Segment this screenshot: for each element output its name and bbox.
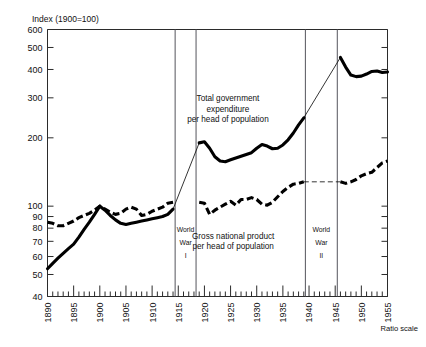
world-war-1-label-line: World: [177, 226, 195, 233]
x-tick-label: 1935: [278, 303, 288, 323]
expenditure-label-line: Total government: [197, 94, 261, 103]
x-tick-label: 1920: [200, 303, 210, 323]
y-axis-title-group: Index (1900=100): [32, 14, 99, 24]
x-tick-label: 1905: [121, 303, 131, 323]
gnp-label-line: Gross national product: [192, 232, 275, 241]
world-war-2-label-line: War: [315, 239, 328, 246]
world-war-1-label-line: I: [185, 252, 187, 259]
y-tick-label: 500: [27, 43, 42, 53]
ratio-scale-note: Ratio scale: [380, 324, 418, 333]
x-tick-label: 1940: [304, 303, 314, 323]
y-tick-label: 90: [32, 212, 42, 222]
x-tick-label: 1925: [226, 303, 236, 323]
y-tick-label: 300: [27, 93, 42, 103]
series-bridge-line: [173, 143, 199, 209]
x-tick-label: 1930: [252, 303, 262, 323]
world-war-2-label-line: World: [313, 226, 331, 233]
series-line: [199, 182, 304, 215]
world-war-2-label-line: II: [319, 252, 323, 259]
y-tick-label: 200: [27, 133, 42, 143]
y-axis-ticks: 405060708090100200300400500600: [27, 25, 387, 302]
world-war-1-label-line: War: [179, 239, 192, 246]
x-tick-label: 1945: [331, 303, 341, 323]
series-bridge-line: [304, 57, 341, 117]
chart-annotations: Total governmentexpenditureper head of p…: [187, 94, 275, 251]
series-line: [48, 206, 174, 269]
x-tick-label: 1900: [95, 303, 105, 323]
y-tick-label: 50: [32, 270, 42, 280]
chart-figure: Index (1900=100) 40506070809010020030040…: [0, 0, 426, 347]
series-line: [340, 161, 387, 183]
x-tick-label: 1895: [69, 303, 79, 323]
plot-border: [48, 30, 388, 297]
series-line: [340, 57, 387, 76]
expenditure-label-line: expenditure: [207, 105, 250, 114]
y-tick-label: 100: [27, 201, 42, 211]
expenditure-label-line: per head of population: [187, 115, 269, 124]
gnp-label-line: per head of population: [192, 242, 274, 251]
y-axis-title: Index (1900=100): [32, 14, 99, 24]
plot-frame: [48, 30, 388, 297]
y-tick-label: 70: [32, 237, 42, 247]
y-tick-label: 40: [32, 292, 42, 302]
war-band-lines: [175, 30, 337, 297]
x-tick-label: 1950: [357, 303, 367, 323]
y-tick-label: 80: [32, 223, 42, 233]
series-line: [199, 118, 304, 162]
x-tick-label: 1955: [383, 303, 393, 323]
y-tick-label: 600: [27, 25, 42, 35]
y-tick-label: 60: [32, 252, 42, 262]
y-tick-label: 400: [27, 65, 42, 75]
x-axis-ticks: 1890189519001905191019151920192519301935…: [43, 286, 393, 323]
x-tick-label: 1910: [148, 303, 158, 323]
x-tick-label: 1890: [43, 303, 53, 323]
chart-canvas: Index (1900=100) 40506070809010020030040…: [0, 0, 426, 347]
x-tick-label: 1915: [174, 303, 184, 323]
